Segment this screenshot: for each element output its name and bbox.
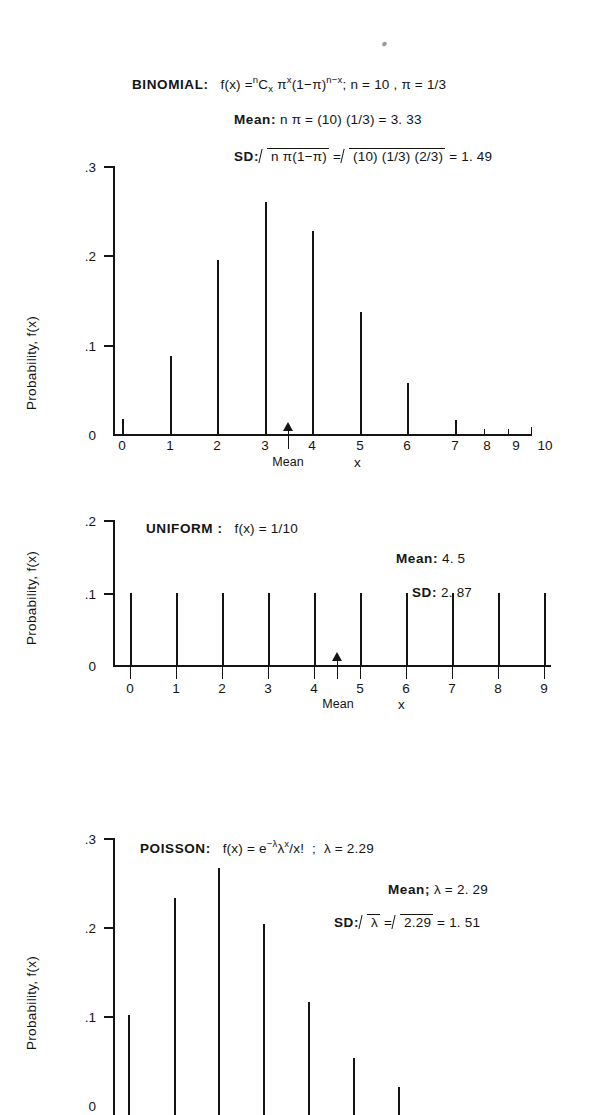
poisson-stem-3	[263, 924, 265, 1115]
poisson-exp-neg-lambda: −λ	[267, 838, 278, 849]
poisson-title: POISSON:	[140, 841, 211, 856]
poisson-header-formula: POISSON: f(x) = e−λλx/x! ; λ = 2.29	[140, 838, 374, 856]
poisson-stem-6	[398, 1087, 400, 1115]
poisson-y-axis	[113, 838, 115, 1115]
poisson-sd-radicand-1: λ	[369, 915, 380, 930]
poisson-mean-expr: λ =	[434, 882, 453, 897]
poisson-sd-radical-2: 2.29	[392, 914, 433, 930]
poisson-stem-0	[128, 1015, 130, 1115]
poisson-ytick-0.2	[104, 927, 114, 929]
poisson-fx: f(x) = e	[223, 841, 267, 856]
poisson-stem-4	[308, 1002, 310, 1115]
poisson-over-xfact: /x!	[289, 841, 304, 856]
poisson-semicolon: ;	[312, 841, 316, 856]
poisson-sd-equals-2: =	[437, 915, 445, 930]
poisson-mean-value: 2. 29	[457, 882, 488, 897]
poisson-y-axis-title: Probability, f(x)	[24, 956, 39, 1050]
poisson-sd-value: 1. 51	[449, 915, 480, 930]
poisson-stem-1	[174, 898, 176, 1115]
poisson-lambda-value: λ = 2.29	[324, 841, 374, 856]
poisson-stem-5	[353, 1058, 355, 1115]
poisson-ylabel-1: .1	[58, 1010, 96, 1025]
poisson-mean-label: Mean;	[388, 882, 430, 897]
poisson-ylabel-0: 0	[58, 1099, 96, 1114]
poisson-ylabel-3: .3	[58, 832, 96, 847]
poisson-sd-radicand-2: 2.29	[402, 915, 433, 930]
poisson-stem-2	[218, 868, 220, 1115]
poisson-mean-line: Mean; λ = 2. 29	[388, 882, 488, 897]
poisson-ytick-0.1	[104, 1016, 114, 1018]
poisson-ytick-0.3	[104, 838, 114, 840]
poisson-panel: POISSON: f(x) = e−λλx/x! ; λ = 2.29 Mean…	[0, 0, 606, 1115]
poisson-sd-line: SD:λ =2.29 = 1. 51	[334, 914, 480, 930]
poisson-ylabel-2: .2	[58, 921, 96, 936]
poisson-sd-label: SD:	[334, 915, 359, 930]
poisson-sd-radical-1: λ	[359, 914, 380, 930]
